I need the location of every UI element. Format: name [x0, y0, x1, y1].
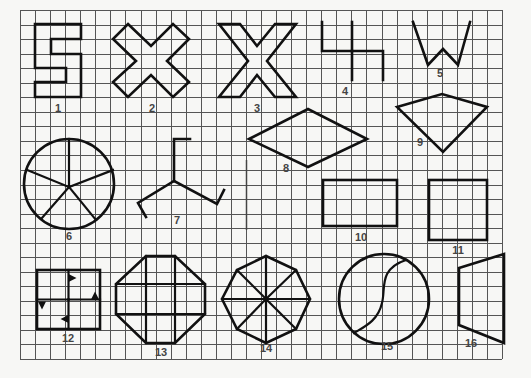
figure-grid-canvas: 12345678910111213141516: [0, 0, 531, 378]
figure-2-number-label: 2: [149, 102, 155, 114]
figure-9-number-label: 9: [417, 136, 423, 148]
figure-13-number-label: 13: [155, 346, 167, 358]
figure-7-number-label: 7: [174, 214, 180, 226]
figure-4-number-label: 4: [342, 85, 349, 97]
figure-5-number-label: 5: [437, 67, 443, 79]
figure-14-number-label: 14: [260, 342, 273, 354]
figure-6-number-label: 6: [66, 230, 72, 242]
figure-15-number-label: 15: [381, 340, 393, 352]
figure-16-number-label: 16: [465, 337, 477, 349]
figure-1-number-label: 1: [55, 102, 61, 114]
figure-3-number-label: 3: [254, 102, 260, 114]
figure-12-number-label: 12: [62, 332, 74, 344]
figure-8-number-label: 8: [283, 162, 289, 174]
figure-10-number-label: 10: [355, 231, 367, 243]
figure-11-number-label: 11: [452, 244, 464, 256]
